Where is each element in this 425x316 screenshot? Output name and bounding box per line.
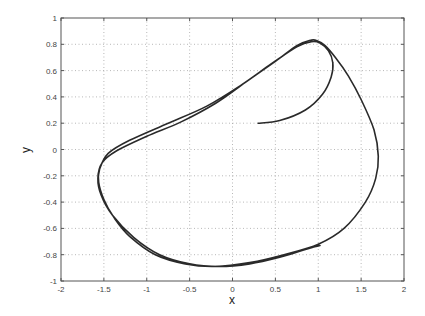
x-tick-label: 1.5 (356, 285, 368, 294)
x-tick-label: 1 (316, 285, 321, 294)
x-tick-label: -1.5 (97, 285, 111, 294)
y-tick-label: -0.8 (43, 251, 57, 260)
trajectory-curve (98, 40, 378, 267)
y-tick-label: 0.2 (46, 119, 58, 128)
y-tick-labels: -1-0.8-0.6-0.4-0.200.20.40.60.81 (43, 14, 57, 286)
x-tick-label: -1 (143, 285, 151, 294)
x-tick-label: -2 (57, 285, 65, 294)
phase-plot: -2-1.5-1-0.500.511.52 -1-0.8-0.6-0.4-0.2… (0, 0, 425, 316)
x-tick-label: -0.5 (183, 285, 197, 294)
y-tick-label: 0 (53, 146, 58, 155)
y-tick-label: 0.4 (46, 93, 58, 102)
x-tick-label: 2 (402, 285, 407, 294)
y-axis-label: y (19, 147, 33, 153)
y-tick-label: 0.6 (46, 67, 58, 76)
x-axis-label: x (229, 293, 235, 307)
y-tick-label: 0.8 (46, 40, 58, 49)
y-tick-label: -0.6 (43, 224, 57, 233)
y-tick-label: 1 (53, 14, 58, 23)
x-tick-label: 0.5 (270, 285, 282, 294)
y-tick-label: -0.2 (43, 172, 57, 181)
y-tick-label: -1 (50, 277, 58, 286)
y-tick-label: -0.4 (43, 198, 57, 207)
